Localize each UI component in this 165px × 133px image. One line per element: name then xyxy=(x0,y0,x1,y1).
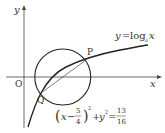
svg-text:13: 13 xyxy=(117,107,126,115)
chord-pq xyxy=(41,60,86,93)
circle-equation: ( x − 5 4 ) 2 + y 2 = 13 16 xyxy=(55,105,126,126)
point-q-label: Q xyxy=(37,95,44,105)
svg-text:5: 5 xyxy=(76,107,80,115)
origin-label: O xyxy=(15,79,22,89)
svg-text:(: ( xyxy=(55,108,60,124)
svg-text:2: 2 xyxy=(88,105,91,111)
svg-text:y: y xyxy=(98,111,105,122)
y-axis-label: y xyxy=(13,4,20,15)
x-axis-label: x xyxy=(150,78,156,89)
x-axis xyxy=(6,75,162,79)
svg-text:−: − xyxy=(67,111,75,122)
point-p-label: P xyxy=(87,47,93,57)
svg-text:16: 16 xyxy=(117,118,126,126)
svg-text:a: a xyxy=(145,37,148,43)
curve-label: y = log a x xyxy=(114,30,155,43)
svg-text:4: 4 xyxy=(76,118,81,126)
y-axis xyxy=(22,5,26,128)
svg-text:=: = xyxy=(108,111,116,122)
svg-text:x: x xyxy=(149,30,155,41)
diagram: y x O P Q y = log a x ( x − 5 4 ) 2 + y … xyxy=(0,0,165,133)
svg-text:y: y xyxy=(114,30,121,41)
svg-text:log: log xyxy=(130,30,146,41)
